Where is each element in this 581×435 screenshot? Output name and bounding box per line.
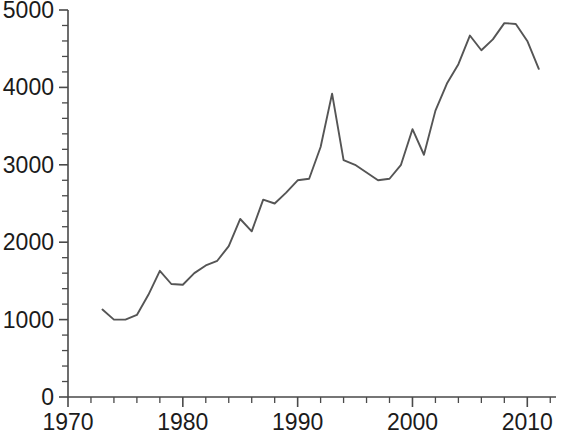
y-axis-tick-label: 1000 — [3, 307, 54, 333]
x-axis-tick-label: 2010 — [502, 409, 553, 435]
y-axis-tick-label: 4000 — [3, 74, 54, 100]
x-axis-tick-label: 1970 — [42, 409, 93, 435]
data-series-line — [102, 23, 538, 319]
line-chart-figure: 0100020003000400050001970198019902000201… — [0, 0, 581, 435]
x-axis-tick-label: 1990 — [272, 409, 323, 435]
y-axis-tick-label: 3000 — [3, 152, 54, 178]
chart-plot-area: 0100020003000400050001970198019902000201… — [0, 0, 581, 435]
y-axis-tick-label: 5000 — [3, 0, 54, 23]
x-axis-tick-label: 2000 — [387, 409, 438, 435]
x-axis-tick-label: 1980 — [157, 409, 208, 435]
y-axis-tick-label: 2000 — [3, 229, 54, 255]
y-axis-tick-label: 0 — [41, 384, 54, 410]
chart-axes — [68, 10, 556, 397]
